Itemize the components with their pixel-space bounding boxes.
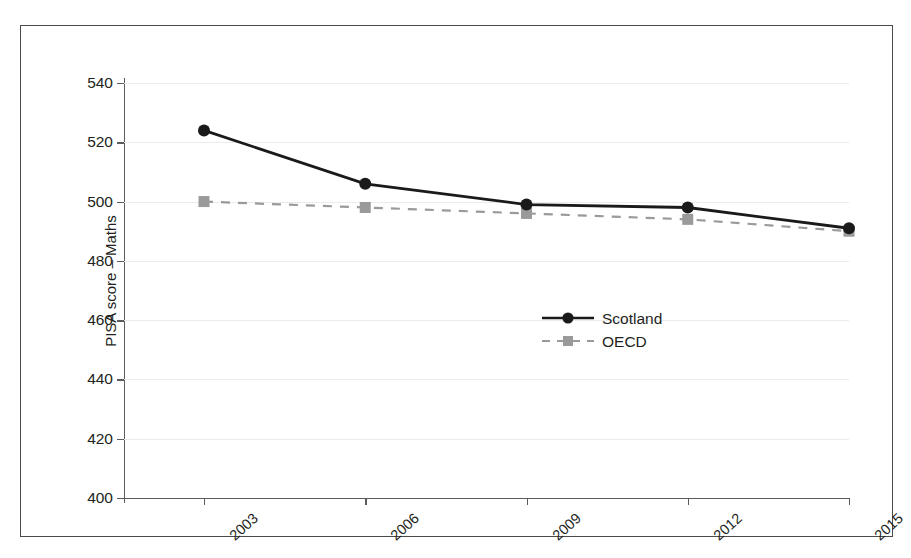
- legend-marker-oecd: [540, 331, 596, 351]
- y-axis-tick: [117, 261, 124, 262]
- y-axis-tick-label: 420: [87, 431, 113, 447]
- legend-label-scotland: Scotland: [602, 310, 662, 328]
- data-point-oecd: [360, 202, 371, 213]
- legend-label-oecd: OECD: [602, 333, 647, 351]
- x-axis-tick: [204, 498, 205, 505]
- legend-marker-scotland: [540, 308, 596, 328]
- data-point-scotland: [521, 199, 533, 211]
- y-axis-tick-label: 460: [87, 312, 113, 328]
- y-axis-tick: [117, 498, 124, 499]
- x-axis-tick-label: 2003: [226, 510, 261, 543]
- x-axis-tick: [527, 498, 528, 505]
- y-axis-tick-label: 540: [87, 75, 113, 91]
- chart-outer-frame: PISA score – Maths 400420440460480500520…: [20, 25, 893, 537]
- x-axis-tick: [365, 498, 366, 505]
- data-point-scotland: [198, 124, 210, 136]
- data-point-oecd: [682, 214, 693, 225]
- data-point-oecd: [199, 196, 210, 207]
- data-point-scotland: [682, 202, 694, 214]
- data-point-scotland: [359, 178, 371, 190]
- x-axis-tick-label: 2015: [871, 510, 906, 543]
- x-axis-tick-label: 2012: [710, 510, 745, 543]
- y-axis-tick: [117, 83, 124, 84]
- chart-figure: PISA score – Maths 400420440460480500520…: [0, 0, 911, 558]
- series-group: [124, 83, 849, 498]
- x-axis-tick-label: 2009: [549, 510, 584, 543]
- x-axis-line: [124, 498, 850, 499]
- y-axis-tick-label: 440: [87, 372, 113, 388]
- y-axis-tick: [117, 320, 124, 321]
- x-axis-tick: [688, 498, 689, 505]
- x-axis-tick-label: 2006: [388, 510, 423, 543]
- y-axis-tick-label: 520: [87, 135, 113, 151]
- y-axis-tick: [117, 142, 124, 143]
- y-axis-tick: [117, 202, 124, 203]
- y-axis-tick: [117, 379, 124, 380]
- data-point-scotland: [843, 222, 855, 234]
- y-axis-tick: [117, 439, 124, 440]
- y-axis-tick-label: 480: [87, 253, 113, 269]
- y-axis-tick-label: 400: [87, 490, 113, 506]
- x-axis-tick: [849, 498, 850, 505]
- y-axis-tick-label: 500: [87, 194, 113, 210]
- plot-area: 400420440460480500520540 200320062009201…: [124, 83, 849, 498]
